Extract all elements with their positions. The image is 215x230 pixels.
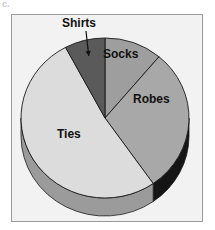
- slice-label-ties: Ties: [57, 128, 81, 140]
- pie-chart[interactable]: [0, 0, 215, 230]
- figure-root: c. Shirts Socks Robes Ties: [0, 0, 215, 230]
- slice-label-socks: Socks: [103, 48, 138, 60]
- slice-label-robes: Robes: [133, 93, 170, 105]
- pie-slices-group: [21, 38, 189, 216]
- slice-label-shirts: Shirts: [62, 17, 96, 29]
